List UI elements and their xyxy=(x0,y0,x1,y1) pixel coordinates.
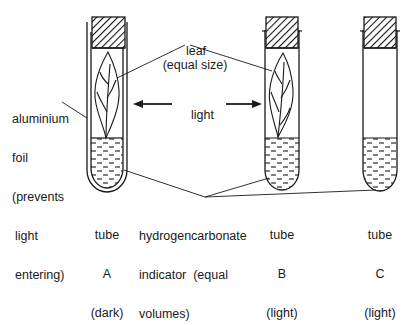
light-label: light xyxy=(184,96,214,122)
tube-c-stopper xyxy=(364,17,396,48)
tube-b xyxy=(262,17,302,190)
indicator-label: hydrogencarbonate indicator (equal volum… xyxy=(139,204,247,325)
leaf-icon xyxy=(269,53,293,137)
leaf-icon xyxy=(95,52,119,138)
tube-a-stopper xyxy=(92,17,125,48)
leaf-label-equal-size: (equal size) xyxy=(152,33,238,85)
tube-b-label: tube B (light) xyxy=(257,203,307,325)
tube-a-label: tube A (dark) xyxy=(82,203,132,325)
light-arrow-left xyxy=(133,100,172,108)
aluminium-foil-label: aluminium foil (prevents light entering) xyxy=(12,87,69,295)
tube-a xyxy=(87,17,127,192)
tube-b-stopper xyxy=(266,17,298,48)
tube-a-indicator-liquid xyxy=(91,138,123,188)
tube-c-indicator-liquid xyxy=(363,138,397,191)
tube-c-label: tube C (light) xyxy=(355,203,405,325)
tube-c xyxy=(360,17,400,191)
light-arrow-right xyxy=(226,100,262,108)
tube-b-indicator-liquid xyxy=(265,138,299,190)
